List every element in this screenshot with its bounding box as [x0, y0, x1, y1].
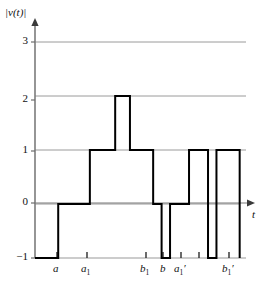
y-axis-arrowhead — [31, 18, 38, 26]
step-function-plot — [0, 0, 269, 287]
y-axis-label: |v(t)| — [5, 6, 26, 18]
step-function-curve — [35, 96, 240, 258]
x-tick-label-a: a — [53, 262, 59, 274]
x-tick-label-b-base: b — [160, 262, 166, 274]
x-axis-ticks — [57, 252, 229, 258]
axes — [31, 18, 255, 258]
y-tick-label-minus1: −1 — [2, 250, 28, 262]
x-tick-label-b1-sub: 1 — [146, 268, 150, 277]
y-tick-label-3: 3 — [2, 34, 28, 46]
x-tick-label-b1-prime: b1′ — [222, 262, 234, 277]
x-tick-label-a1-sub: 1 — [87, 268, 91, 277]
y-tick-label-1: 1 — [2, 143, 28, 155]
x-axis-arrowhead — [247, 200, 255, 207]
x-tick-label-a1-prime: a1′ — [174, 262, 186, 277]
x-tick-label-b1: b1 — [140, 262, 149, 277]
x-tick-label-a1: a1 — [81, 262, 90, 277]
x-tick-label-b: b — [160, 262, 166, 274]
x-tick-label-a-base: a — [53, 262, 59, 274]
gridlines — [35, 42, 246, 204]
x-tick-label-a1p-prime: ′ — [183, 262, 185, 274]
x-tick-label-b1p-prime: ′ — [231, 262, 233, 274]
y-tick-label-0: 0 — [2, 195, 28, 207]
y-tick-label-2: 2 — [2, 92, 28, 104]
x-axis-label: t — [252, 208, 255, 220]
